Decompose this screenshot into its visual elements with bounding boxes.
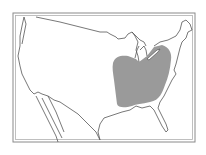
- range-map: [0, 0, 206, 155]
- map-canvas: [0, 0, 206, 155]
